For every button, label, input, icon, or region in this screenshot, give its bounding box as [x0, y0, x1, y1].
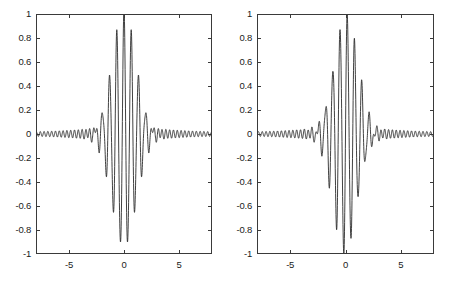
y-tick-label: 0	[26, 129, 31, 139]
y-tick-mark-right	[208, 158, 212, 159]
x-tick-mark-top	[124, 14, 125, 18]
y-tick-label: -0.6	[15, 201, 31, 211]
x-tick-mark-top	[346, 14, 347, 18]
y-tick-label: 1	[26, 9, 31, 19]
y-tick-label: -0.8	[236, 225, 252, 235]
y-tick-mark-right	[208, 134, 212, 135]
plot-axes-left	[36, 14, 212, 254]
y-tick-mark-right	[208, 206, 212, 207]
y-tick-label: 0.4	[18, 81, 31, 91]
y-tick-label: -0.2	[15, 153, 31, 163]
y-tick-label: 0.8	[239, 33, 252, 43]
y-tick-mark-right	[430, 134, 434, 135]
y-tick-mark-right	[430, 110, 434, 111]
figure-canvas: -1-0.8-0.6-0.4-0.200.20.40.60.81 -505 -1…	[0, 0, 450, 288]
y-tick-mark	[36, 110, 40, 111]
chart-panel-right: -1-0.8-0.6-0.4-0.200.20.40.60.81 -505	[225, 0, 450, 288]
y-tick-mark-right	[208, 182, 212, 183]
y-tick-mark-right	[430, 38, 434, 39]
y-tick-mark-right	[208, 38, 212, 39]
x-tick-label: 0	[343, 260, 348, 270]
y-tick-label: 0.4	[239, 81, 252, 91]
y-tick-label: 0.6	[18, 57, 31, 67]
x-tick-mark-top	[290, 14, 291, 18]
y-tick-mark	[36, 158, 40, 159]
x-tick-label: 0	[121, 260, 126, 270]
y-tick-mark	[36, 230, 40, 231]
y-tick-mark-right	[430, 182, 434, 183]
y-tick-label: -0.6	[236, 201, 252, 211]
x-tick-label: -5	[286, 260, 294, 270]
y-tick-mark	[36, 182, 40, 183]
x-tick-mark	[179, 250, 180, 254]
x-tick-mark-top	[69, 14, 70, 18]
y-tick-mark-right	[430, 158, 434, 159]
y-tick-label: -1	[244, 249, 252, 259]
y-tick-mark	[257, 158, 261, 159]
y-tick-label: 0.8	[18, 33, 31, 43]
y-tick-mark	[257, 110, 261, 111]
y-tick-label: 1	[247, 9, 252, 19]
y-tick-label: 0.2	[239, 105, 252, 115]
y-tick-mark-right	[430, 206, 434, 207]
y-tick-label: 0	[247, 129, 252, 139]
y-tick-mark	[257, 38, 261, 39]
x-tick-mark	[401, 250, 402, 254]
y-tick-mark-right	[430, 230, 434, 231]
chart-panel-left: -1-0.8-0.6-0.4-0.200.20.40.60.81 -505	[0, 0, 225, 288]
y-tick-mark	[36, 206, 40, 207]
y-tick-label: -0.4	[15, 177, 31, 187]
x-tick-label: 5	[398, 260, 403, 270]
y-tick-mark	[36, 38, 40, 39]
y-tick-mark-right	[430, 86, 434, 87]
y-tick-mark	[36, 86, 40, 87]
x-tick-label: -5	[65, 260, 73, 270]
x-tick-label: 5	[176, 260, 181, 270]
y-tick-mark	[257, 86, 261, 87]
y-tick-mark-right	[430, 62, 434, 63]
y-tick-mark	[257, 182, 261, 183]
y-tick-mark-right	[208, 110, 212, 111]
y-tick-label: -0.4	[236, 177, 252, 187]
y-tick-label: -0.2	[236, 153, 252, 163]
x-tick-mark	[290, 250, 291, 254]
y-tick-mark-right	[208, 86, 212, 87]
wavelet-curve-right	[258, 15, 433, 253]
y-tick-mark-right	[208, 62, 212, 63]
y-tick-mark	[257, 230, 261, 231]
y-tick-label: -0.8	[15, 225, 31, 235]
plot-axes-right	[257, 14, 434, 254]
x-tick-mark-top	[179, 14, 180, 18]
y-tick-mark	[36, 62, 40, 63]
y-tick-mark	[257, 206, 261, 207]
wavelet-curve-left	[37, 15, 211, 253]
y-tick-mark-right	[208, 230, 212, 231]
y-tick-mark	[257, 134, 261, 135]
y-tick-mark	[257, 62, 261, 63]
y-tick-label: 0.2	[18, 105, 31, 115]
x-tick-mark-top	[401, 14, 402, 18]
x-tick-mark	[69, 250, 70, 254]
x-tick-mark	[346, 250, 347, 254]
x-tick-mark	[124, 250, 125, 254]
y-tick-label: -1	[23, 249, 31, 259]
y-tick-label: 0.6	[239, 57, 252, 67]
y-tick-mark	[36, 134, 40, 135]
